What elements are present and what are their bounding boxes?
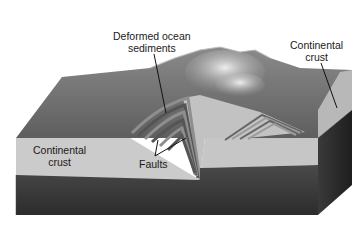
leader-fault-2	[155, 138, 186, 156]
label-continental-crust-right: Continental crust	[290, 39, 343, 63]
continental-collision-diagram: Deformed ocean sediments Continental cru…	[0, 0, 363, 230]
leader-fault-1	[155, 140, 158, 156]
label-continental-crust-left: Continental crust	[33, 144, 86, 168]
label-deformed-ocean-sediments: Deformed ocean sediments	[113, 30, 191, 54]
label-faults: Faults	[139, 158, 168, 170]
